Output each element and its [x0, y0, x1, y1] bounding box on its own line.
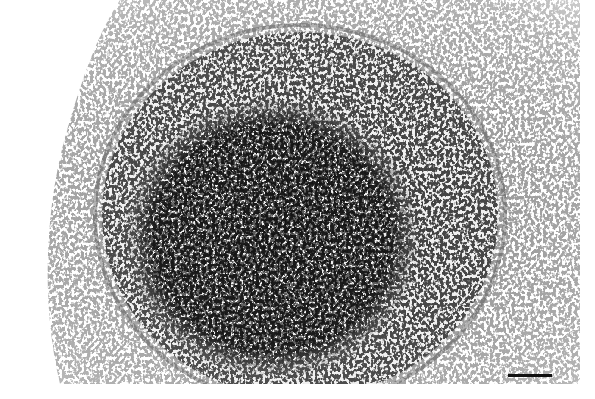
figure-frame [0, 0, 595, 399]
tissue-texture [0, 0, 580, 384]
scale-bar [508, 374, 552, 377]
histology-micrograph [0, 0, 580, 384]
